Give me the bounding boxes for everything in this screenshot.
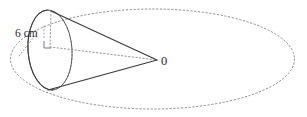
cone-base-ellipse-group	[25, 9, 74, 92]
cone-slant-lower	[48, 60, 157, 90]
apex-label: 0	[161, 54, 167, 68]
geometry-canvas: 6 cm 0	[0, 0, 307, 117]
radius-label: 6 cm	[15, 27, 38, 39]
cone-geometry-diagram: 6 cm 0	[0, 0, 307, 117]
cone-base-ellipse-visible-arc	[25, 10, 53, 91]
cone-height-line	[50, 11, 51, 47]
cone-axis-line	[50, 47, 157, 60]
cone-base-ellipse-hidden-arc	[47, 9, 75, 90]
cone-slant-upper	[51, 11, 157, 60]
large-dotted-ellipse	[11, 9, 295, 109]
cone-base-rim	[25, 9, 74, 92]
